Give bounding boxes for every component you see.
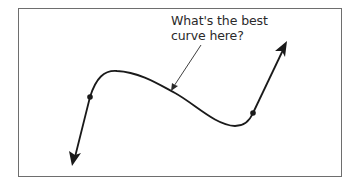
right-extension-line [253, 50, 283, 113]
left-arrowhead-icon [69, 151, 81, 166]
left-extension-line [75, 97, 90, 157]
annotation-label: What's the best curve here? [171, 13, 291, 43]
right-data-point [250, 110, 256, 116]
fitted-curve [90, 71, 253, 126]
pointer-arrow-line [174, 45, 201, 86]
annotation-line-2: curve here? [171, 28, 291, 43]
pointer-arrowhead-icon [171, 83, 178, 91]
left-data-point [87, 94, 93, 100]
annotation-line-1: What's the best [171, 13, 291, 28]
